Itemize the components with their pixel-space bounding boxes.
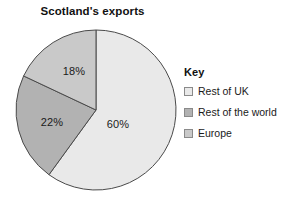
pie-slice-value-label: 60% bbox=[107, 118, 130, 130]
legend-item-label: Rest of UK bbox=[198, 86, 249, 97]
legend-item: Rest of the world bbox=[184, 107, 281, 118]
legend-items: Rest of UKRest of the worldEurope bbox=[184, 86, 281, 139]
pie-svg bbox=[0, 0, 185, 199]
legend-item-label: Europe bbox=[198, 128, 232, 139]
pie-slice-value-label: 22% bbox=[41, 116, 64, 128]
legend-swatch-icon bbox=[184, 108, 193, 117]
legend-swatch-icon bbox=[184, 87, 193, 96]
legend-title: Key bbox=[184, 66, 281, 78]
legend-item-label: Rest of the world bbox=[198, 107, 277, 118]
legend-item: Europe bbox=[184, 128, 281, 139]
pie-slice-group bbox=[16, 30, 176, 190]
pie-chart-figure: Scotland's exports 60%22%18% Key Rest of… bbox=[0, 0, 281, 199]
legend-swatch-icon bbox=[184, 129, 193, 138]
pie-plot-area: 60%22%18% bbox=[0, 0, 185, 199]
pie-slice-value-label: 18% bbox=[63, 65, 86, 77]
legend: Key Rest of UKRest of the worldEurope bbox=[184, 66, 281, 149]
legend-item: Rest of UK bbox=[184, 86, 281, 97]
